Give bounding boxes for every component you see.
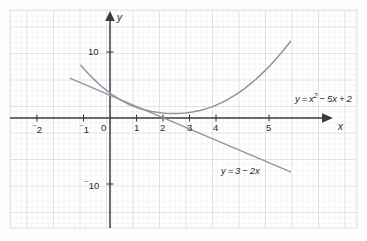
x-tick-label-0: 0 — [101, 123, 106, 133]
parabola-equation-text: y = x2 − 5x + 2 — [295, 93, 352, 104]
x-tick-label--1: ⁻1 — [79, 123, 89, 134]
graph-figure: ⁻2 ⁻1 0 1 2 3 4 5 10 ⁻10 x y y = x2 − 5x… — [0, 0, 367, 241]
x-tick-value: 1 — [84, 124, 89, 135]
x-tick-value: 2 — [37, 124, 42, 135]
y-tick-label--10: ⁻10 — [84, 179, 99, 190]
line-equation-label: y = 3 − 2x — [221, 166, 260, 176]
x-tick-label-4: 4 — [213, 123, 218, 133]
x-tick-label-5: 5 — [266, 123, 271, 133]
line-equation-text: y = 3 − 2x — [221, 165, 260, 176]
x-tick-label-3: 3 — [187, 123, 192, 133]
x-tick-label-2: 2 — [160, 123, 165, 133]
y-tick-label-10: 10 — [88, 47, 99, 57]
y-tick-value: 10 — [89, 180, 100, 191]
parabola-equation-label: y = x2 − 5x + 2 — [295, 94, 352, 104]
coordinate-plane — [0, 0, 367, 241]
x-axis-label: x — [338, 122, 343, 132]
x-tick-label-1: 1 — [134, 123, 139, 133]
x-tick-label--2: ⁻2 — [32, 123, 42, 134]
grid-background — [10, 10, 357, 228]
y-axis-label: y — [117, 13, 122, 23]
